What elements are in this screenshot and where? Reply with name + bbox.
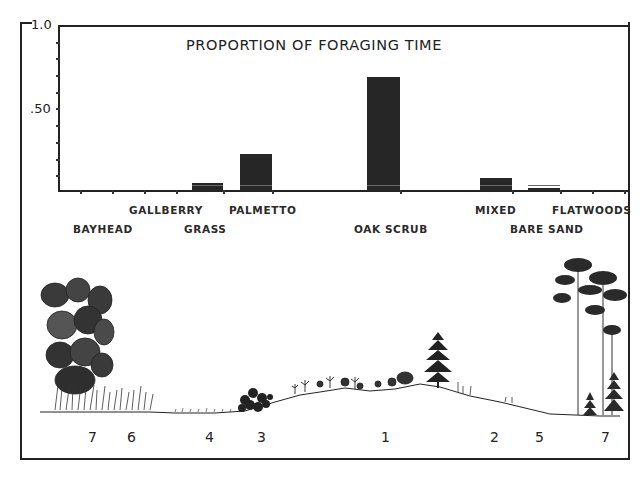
gallberry-shrubs-icon [55,382,153,410]
zone-number: 6 [127,429,136,445]
grass-icon [175,408,231,412]
zone-number: 1 [381,429,390,445]
palmetto-icon [238,388,273,412]
zone-number: 2 [490,429,499,445]
mixed-shrubs-icon [458,382,512,403]
zone-number: 4 [205,429,214,445]
pine-canopy-icon [553,258,627,415]
habitat-profile-illustration [0,0,644,478]
zone-number: 3 [257,429,266,445]
sand-pine-icon [424,332,452,388]
zone-number: 7 [88,429,97,445]
zone-number: 7 [601,429,610,445]
zone-number: 5 [535,429,544,445]
oak-scrub-icon [292,372,413,394]
bayhead-trees-icon [41,278,114,394]
